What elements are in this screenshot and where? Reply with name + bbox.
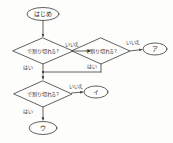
- node-answer-i-shape: [84, 86, 108, 98]
- node-decision3-shape: [14, 81, 72, 107]
- node-decision1-shape: [13, 38, 73, 64]
- node-answer-a-shape: [143, 43, 167, 55]
- flowchart-canvas: はじめ で割り切れる? で割り切れる? ア で割り切れる? イ ウ いいえ いい…: [0, 0, 173, 143]
- node-answer-u-shape: [29, 122, 57, 135]
- edge-decision2-no-to-answer-a: [130, 50, 142, 52]
- edge-decision1-no-arrowhead: [88, 49, 92, 52]
- edge-decision3-no-to-answer-i: [72, 92, 83, 93]
- flowchart-svg: [0, 0, 173, 143]
- node-start-shape: [27, 8, 59, 21]
